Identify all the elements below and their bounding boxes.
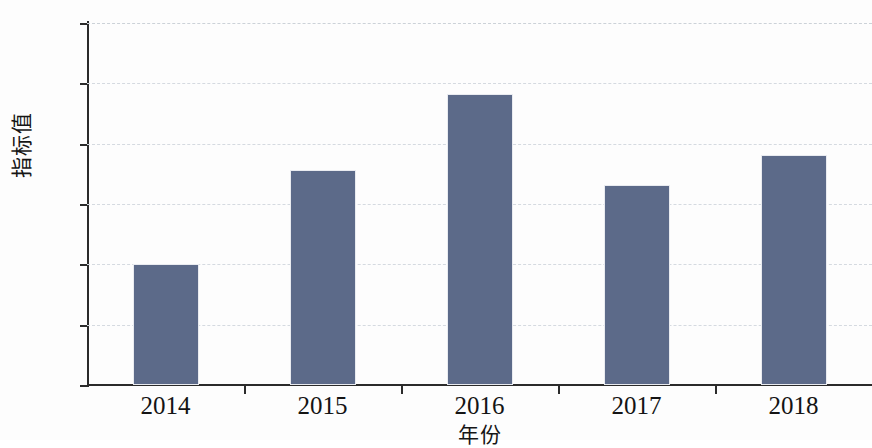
x-tick-label: 2018 [715, 392, 872, 420]
bar-2014 [133, 264, 199, 385]
x-tick-label: 2017 [558, 392, 715, 420]
y-tick-mark [80, 204, 87, 206]
y-tick-mark [80, 325, 87, 327]
y-tick-mark [80, 83, 87, 85]
x-axis-title: 年份 [401, 418, 558, 448]
bar-2018 [761, 155, 827, 385]
x-tick-mark [558, 386, 560, 394]
gridline [87, 83, 872, 84]
x-tick-mark [244, 386, 246, 394]
x-tick-mark [715, 386, 717, 394]
y-tick-mark [80, 23, 87, 25]
gridline [87, 23, 872, 24]
x-tick-mark [401, 386, 403, 394]
x-tick-label: 2015 [244, 392, 401, 420]
y-tick-mark [80, 385, 87, 387]
y-tick-mark [80, 144, 87, 146]
bar-2017 [604, 185, 670, 385]
y-tick-mark [80, 264, 87, 266]
y-axis-title: 指标值 [5, 75, 35, 215]
bar-2015 [290, 170, 356, 385]
x-tick-label: 2014 [87, 392, 244, 420]
x-tick-label: 2016 [401, 392, 558, 420]
bar-2016 [447, 94, 513, 385]
